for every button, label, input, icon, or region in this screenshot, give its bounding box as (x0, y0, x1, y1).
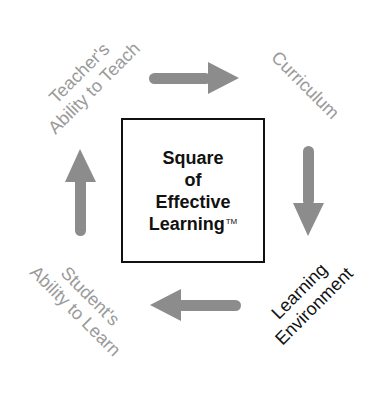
title-line-4-text: Learning (149, 214, 225, 234)
square-of-effective-learning-box: Square of Effective LearningTM (121, 118, 265, 263)
arrow-left-icon (150, 289, 241, 321)
trademark-mark: TM (226, 217, 238, 226)
title-line-4: LearningTM (149, 213, 238, 235)
title-line-2: of (185, 169, 202, 191)
title-line-3: Effective (155, 191, 230, 213)
arrow-up-icon (65, 149, 96, 236)
title-line-1: Square (162, 147, 223, 169)
arrow-right-icon (149, 62, 239, 94)
arrow-down-icon (293, 146, 324, 236)
